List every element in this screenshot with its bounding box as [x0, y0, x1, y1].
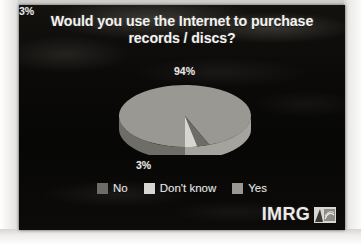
pie-slice-yes[interactable]	[119, 85, 251, 147]
legend-label-dont-know: Don't know	[160, 182, 217, 194]
legend-item-dont-know[interactable]: Don't know	[144, 182, 217, 194]
legend-swatch-no	[97, 183, 108, 194]
pie-chart	[118, 83, 252, 155]
imrg-emblem-icon	[314, 207, 336, 223]
chart-legend: No Don't know Yes	[25, 182, 339, 194]
pie-label-dont-know: 3%	[19, 5, 34, 17]
pie-label-yes: 94%	[174, 65, 195, 77]
legend-label-no: No	[113, 182, 128, 194]
scanned-page: Would you use the Internet to purchase r…	[0, 0, 361, 244]
page-title-line-2: records / discs?	[25, 30, 339, 47]
imrg-logo: IMRG	[262, 204, 336, 225]
pie-chart-svg	[118, 83, 252, 155]
legend-item-no[interactable]: No	[97, 182, 128, 194]
legend-swatch-dont-know	[144, 183, 155, 194]
page-title: Would you use the Internet to purchase r…	[25, 13, 339, 47]
paper-margin-bottom	[0, 229, 361, 244]
page-title-line-1: Would you use the Internet to purchase	[25, 13, 339, 30]
legend-swatch-yes	[232, 183, 243, 194]
pie-label-no: 3%	[136, 159, 151, 171]
legend-label-yes: Yes	[248, 182, 267, 194]
presentation-slide: Would you use the Internet to purchase r…	[19, 5, 345, 230]
paper-margin-right	[344, 0, 361, 244]
legend-item-yes[interactable]: Yes	[232, 182, 267, 194]
pie-top-face	[119, 85, 251, 147]
imrg-wordmark: IMRG	[262, 204, 310, 225]
